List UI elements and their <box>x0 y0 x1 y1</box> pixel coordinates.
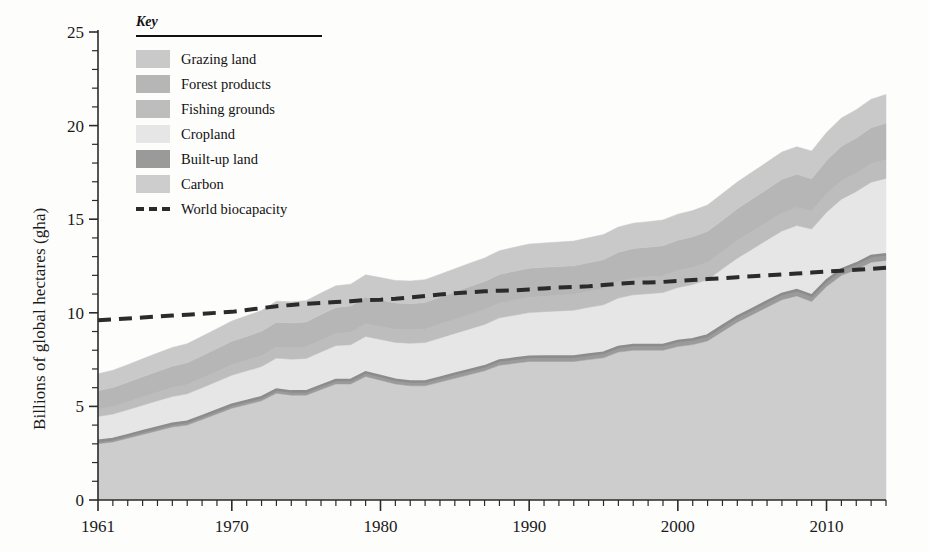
legend-swatch <box>136 125 170 143</box>
y-tick-label: 5 <box>76 397 85 416</box>
legend-item-label: Built-up land <box>181 151 259 167</box>
legend-item-grazing-land[interactable]: Grazing land <box>136 50 257 68</box>
x-tick-label: 2010 <box>810 517 844 536</box>
legend-title: Key <box>135 14 159 29</box>
x-tick-label: 1970 <box>215 517 249 536</box>
chart-figure: Billions of global hectares (gha) 051015… <box>0 0 929 552</box>
legend-item-fishing-grounds[interactable]: Fishing grounds <box>136 100 275 118</box>
legend-item-label: World biocapacity <box>181 201 288 217</box>
x-tick-label: 1980 <box>363 517 397 536</box>
stacked-area-chart: 0510152025196119701980199020002010KeyGra… <box>0 0 929 552</box>
legend-item-built-up-land[interactable]: Built-up land <box>136 150 259 168</box>
y-tick-label: 15 <box>67 210 84 229</box>
x-tick-label: 1990 <box>512 517 546 536</box>
x-tick-label: 2000 <box>661 517 695 536</box>
y-tick-label: 10 <box>67 304 84 323</box>
legend-swatch <box>136 100 170 118</box>
legend-item-label: Carbon <box>181 176 224 192</box>
legend[interactable]: KeyGrazing landForest productsFishing gr… <box>135 14 322 217</box>
y-tick-label: 0 <box>76 491 85 510</box>
y-tick-label: 20 <box>67 117 84 136</box>
legend-swatch <box>136 75 170 93</box>
legend-item-label: Forest products <box>181 76 271 92</box>
legend-item-world-biocapacity[interactable]: World biocapacity <box>136 201 288 217</box>
legend-item-label: Fishing grounds <box>181 101 275 117</box>
legend-item-label: Cropland <box>181 126 236 142</box>
legend-item-label: Grazing land <box>181 51 257 67</box>
legend-swatch <box>136 175 170 193</box>
legend-swatch <box>136 150 170 168</box>
legend-item-carbon[interactable]: Carbon <box>136 175 224 193</box>
legend-item-forest-products[interactable]: Forest products <box>136 75 271 93</box>
legend-swatch <box>136 50 170 68</box>
y-tick-label: 25 <box>67 23 84 42</box>
x-tick-label: 1961 <box>81 517 115 536</box>
legend-item-cropland[interactable]: Cropland <box>136 125 236 143</box>
